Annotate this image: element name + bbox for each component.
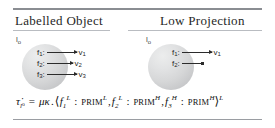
value-left-2-base: v — [75, 59, 79, 68]
panel-low-projection: lo f1: v1 f2: — [140, 34, 270, 90]
value-left-1-base: v — [79, 48, 83, 57]
object-label-right: lo — [146, 35, 151, 45]
formula-term-1-prim: PRIM — [81, 97, 103, 107]
formula-equals: = — [28, 95, 36, 107]
arrow-shaft — [47, 74, 77, 75]
field-row-right-2: f2: — [172, 58, 206, 69]
field-row-left-2: f2: v2 — [37, 58, 82, 69]
value-right-1-base: v — [214, 48, 218, 57]
column-title-labelled-object: Labelled Object — [15, 13, 103, 28]
field-row-right-1: f1: v1 — [172, 47, 221, 58]
field-label-left-2: f2: — [37, 59, 45, 69]
left-header-rule — [13, 30, 110, 31]
formula-result-superscript: L — [219, 94, 223, 102]
arrow-shaft — [182, 52, 212, 53]
field-left-2-subscript: 2 — [39, 62, 42, 68]
formula-tau-dot: τ̇ — [16, 95, 20, 107]
formula-term-2-superscript: L — [119, 94, 123, 102]
field-label-right-1: f1: — [172, 48, 180, 58]
bottom-rule — [13, 119, 262, 120]
formula-term-1-subscript: 1 — [63, 102, 67, 110]
formula-term-2-subscript: 2 — [115, 102, 119, 110]
field-row-left-3: f3: v3 — [37, 69, 86, 80]
field-right-1-colon: : — [177, 48, 179, 57]
blunt-arrow-icon — [182, 60, 204, 67]
column-title-low-projection: Low Projection — [160, 13, 245, 28]
long-arrow-icon — [182, 49, 212, 56]
top-rule — [13, 8, 262, 10]
value-label-left-2: v2 — [75, 59, 82, 69]
value-label-right-1: v1 — [214, 48, 221, 58]
object-label-left-subscript: o — [18, 39, 21, 45]
field-row-left-1: f1: v1 — [37, 47, 86, 58]
arrow-head — [70, 61, 74, 65]
field-left-3-subscript: 3 — [39, 73, 42, 79]
object-label-right-subscript: o — [148, 39, 151, 45]
long-arrow-icon — [47, 71, 77, 78]
formula-term-1-colon: : — [73, 95, 78, 107]
formula-tau-subsubscript: o — [22, 101, 25, 107]
arrow-head — [74, 72, 78, 76]
formula-term-3-subscript: 3 — [168, 102, 172, 110]
field-right-1-subscript: 1 — [174, 51, 177, 57]
arrow-head — [209, 50, 213, 54]
field-left-3-colon: : — [42, 70, 44, 79]
typing-formula: τ̇lo = μκ.⟨f1L : PRIML,f2L : PRIMH,f3H :… — [16, 94, 223, 110]
field-right-2-colon: : — [177, 59, 179, 68]
panel-labelled-object: lo f1: v1 f2: v2 — [10, 34, 140, 90]
field-right-2-subscript: 2 — [174, 62, 177, 68]
arrow-shaft — [47, 52, 77, 53]
value-left-1-subscript: 1 — [83, 51, 86, 57]
formula-term-3-superscript: H — [172, 94, 177, 102]
right-header-rule — [128, 30, 262, 31]
formula-term-1-superscript: L — [66, 94, 70, 102]
formula-term-2-colon: : — [125, 95, 130, 107]
value-left-3-subscript: 3 — [83, 73, 86, 79]
value-label-left-3: v3 — [79, 70, 86, 80]
figure-container: Labelled Object Low Projection lo f1: v1… — [0, 0, 275, 128]
value-left-2-subscript: 2 — [79, 62, 82, 68]
field-label-right-2: f2: — [172, 59, 180, 69]
arrow-head — [201, 62, 204, 65]
value-left-3-base: v — [79, 70, 83, 79]
field-left-1-colon: : — [42, 48, 44, 57]
formula-tau: τ — [16, 95, 20, 107]
formula-term-2-prim: PRIM — [133, 97, 155, 107]
long-arrow-icon — [47, 49, 77, 56]
field-left-2-colon: : — [42, 59, 44, 68]
value-label-left-1: v1 — [79, 48, 86, 58]
field-left-1-subscript: 1 — [39, 51, 42, 57]
value-right-1-subscript: 1 — [218, 51, 221, 57]
mid-arrow-icon — [47, 60, 73, 67]
formula-term-3-prim: PRIM — [188, 97, 210, 107]
field-label-left-1: f1: — [37, 48, 45, 58]
arrow-head — [74, 50, 78, 54]
object-label-left: lo — [16, 35, 21, 45]
field-label-left-3: f3: — [37, 70, 45, 80]
formula-term-3-colon: : — [180, 95, 185, 107]
